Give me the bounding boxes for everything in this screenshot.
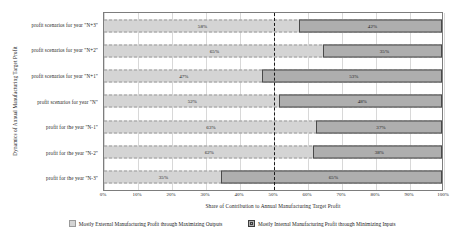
plot-area: 58%42%65%35%47%53%52%48%63%37%62%38%35%6…	[103, 12, 443, 191]
bar-row: 62%38%	[104, 139, 442, 164]
bar-row: 47%53%	[104, 64, 442, 89]
bar-value-label-internal: 42%	[368, 23, 377, 28]
bar-rows: 58%42%65%35%47%53%52%48%63%37%62%38%35%6…	[104, 13, 442, 190]
bar-value-label-internal: 35%	[380, 48, 389, 53]
category-label: profit for the year "N-2"	[18, 140, 102, 166]
x-axis-tick-label: 50%	[268, 192, 277, 197]
x-axis-title: Share of Contribution to Annual Manufact…	[103, 203, 443, 209]
x-axis-tick-label: 40%	[234, 192, 243, 197]
category-label: profit scenarios for year "N"	[18, 89, 102, 115]
category-label: profit scenarios for year "N+2"	[18, 38, 102, 64]
legend-swatch-external-icon	[69, 220, 76, 227]
category-label: profit scenarios for year "N+3"	[18, 12, 102, 38]
bar-row: 63%37%	[104, 114, 442, 139]
x-axis-tick-label: 90%	[404, 192, 413, 197]
legend-item[interactable]: Mostly Internal Manufacturing Profit thr…	[248, 220, 395, 227]
bar-value-label-internal: 65%	[329, 175, 338, 180]
x-axis-tick-label: 30%	[200, 192, 209, 197]
x-axis-ticks: 0%10%20%30%40%50%60%70%80%90%100%	[103, 192, 443, 202]
bar-value-label-external: 52%	[188, 99, 197, 104]
category-label: profit scenarios for year "N+1"	[18, 63, 102, 89]
legend-label: Mostly Internal Manufacturing Profit thr…	[258, 221, 396, 227]
legend-swatch-internal-icon	[248, 220, 255, 227]
legend-label: Mostly External Manufacturing Profit thr…	[79, 221, 223, 227]
x-axis-tick-label: 80%	[370, 192, 379, 197]
reference-line-50	[274, 13, 275, 190]
chart-legend: Mostly External Manufacturing Profit thr…	[0, 220, 465, 227]
x-axis-tick-label: 100%	[437, 192, 449, 197]
bar-value-label-external: 62%	[205, 150, 214, 155]
bar-chart: Dynamics of Annual Manufacturing Target …	[0, 0, 465, 238]
category-label: profit for the year "N-1"	[18, 114, 102, 140]
bar-value-label-external: 65%	[210, 48, 219, 53]
bar-value-label-internal: 48%	[358, 99, 367, 104]
bar-value-label-external: 63%	[206, 124, 215, 129]
bar-row: 58%42%	[104, 13, 442, 38]
bar-row: 65%35%	[104, 38, 442, 63]
x-axis-tick-label: 20%	[166, 192, 175, 197]
category-axis-labels: profit scenarios for year "N+3"profit sc…	[18, 12, 102, 191]
x-axis-tick-label: 70%	[336, 192, 345, 197]
bar-row: 52%48%	[104, 89, 442, 114]
gridline	[444, 13, 445, 190]
legend-item[interactable]: Mostly External Manufacturing Profit thr…	[69, 220, 222, 227]
bar-value-label-external: 47%	[179, 74, 188, 79]
bar-value-label-internal: 37%	[376, 124, 385, 129]
bar-value-label-internal: 53%	[349, 74, 358, 79]
bar-row: 35%65%	[104, 165, 442, 190]
bar-value-label-internal: 38%	[375, 150, 384, 155]
bar-value-label-external: 35%	[159, 175, 168, 180]
x-axis-tick-label: 60%	[302, 192, 311, 197]
x-axis-tick-label: 10%	[132, 192, 141, 197]
x-axis-tick-label: 0%	[100, 192, 107, 197]
category-label: profit for the year "N-3"	[18, 165, 102, 191]
bar-value-label-external: 58%	[198, 23, 207, 28]
